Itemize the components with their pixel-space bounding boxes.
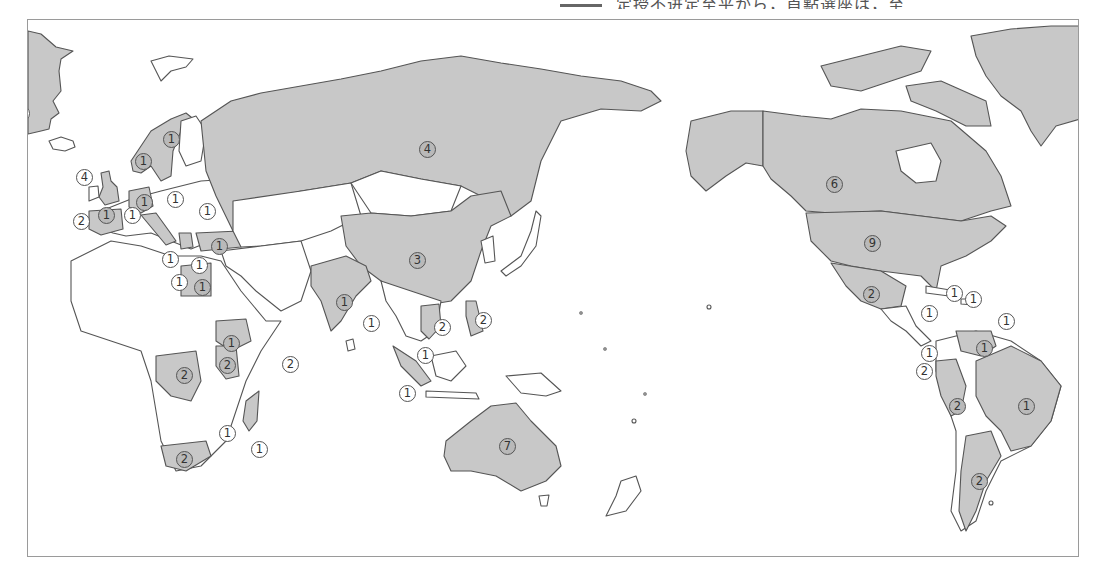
- marker-turkey: 1: [211, 238, 228, 255]
- marker-philippines: 2: [475, 312, 492, 329]
- marker-russia: 4: [419, 141, 436, 158]
- world-map-frame: 1411111211111114311221112221127692111111…: [27, 19, 1079, 557]
- marker-indonesia: 1: [399, 385, 416, 402]
- iceland: [49, 137, 75, 151]
- new-guinea: [506, 373, 561, 396]
- marker-poland: 1: [167, 191, 184, 208]
- java: [426, 391, 479, 399]
- marker-italy-sicily: 1: [162, 251, 179, 268]
- marker-ecuador: 2: [916, 363, 933, 380]
- marker-argentina: 2: [971, 473, 988, 490]
- marker-greece: 1: [191, 257, 208, 274]
- usa: [806, 211, 1006, 291]
- uk: [99, 171, 119, 205]
- marker-costa-rica: 1: [921, 305, 938, 322]
- sri-lanka: [346, 339, 355, 351]
- marker-ethiopia: 1: [223, 335, 240, 352]
- madagascar: [243, 391, 259, 431]
- marker-madagascar: 1: [251, 441, 268, 458]
- marker-saint-lucia: 1: [998, 313, 1015, 330]
- cropped-header-text: 定授不进定至平から，首點選座は，至: [330, 0, 1097, 9]
- new-zealand: [606, 476, 641, 516]
- marker-dominican-republic: 1: [965, 291, 982, 308]
- marker-mexico: 2: [863, 286, 880, 303]
- marker-kenya: 2: [219, 357, 236, 374]
- marker-usa: 9: [864, 235, 881, 252]
- marker-tunisia: 1: [171, 274, 188, 291]
- ireland: [89, 186, 99, 201]
- marker-malaysia: 1: [417, 347, 434, 364]
- world-map: [28, 20, 1079, 557]
- tasmania: [539, 495, 549, 506]
- marker-canada: 6: [826, 176, 843, 193]
- marker-south-africa: 2: [176, 451, 193, 468]
- marker-venezuela: 1: [976, 340, 993, 357]
- marker-china: 3: [409, 252, 426, 269]
- marker-sweden: 1: [163, 131, 180, 148]
- marker-norway: 1: [135, 153, 152, 170]
- greenland-west: [28, 31, 73, 134]
- marker-malawi: 1: [219, 425, 236, 442]
- answer-box: [560, 4, 602, 7]
- japan: [501, 211, 541, 276]
- greece: [179, 233, 193, 249]
- marker-egypt: 1: [194, 279, 211, 296]
- marker-peru: 2: [949, 398, 966, 415]
- marker-switzerland: 2: [73, 213, 90, 230]
- alaska: [686, 111, 763, 191]
- marker-ukraine: 1: [199, 203, 216, 220]
- greenland-east: [971, 26, 1079, 146]
- marker-seychelles: 2: [282, 356, 299, 373]
- svalbard: [151, 56, 193, 81]
- marker-australia: 7: [499, 438, 516, 455]
- marker-spain: 1: [98, 207, 115, 224]
- marker-vietnam: 2: [434, 319, 451, 336]
- marker-india: 1: [336, 294, 353, 311]
- marker-dr-congo: 2: [176, 367, 193, 384]
- marker-brazil: 1: [1018, 398, 1035, 415]
- marker-france-corsica: 1: [124, 207, 141, 224]
- korea: [481, 236, 495, 263]
- marker-bangladesh: 1: [363, 315, 380, 332]
- borneo: [431, 351, 466, 381]
- marker-germany: 1: [136, 194, 153, 211]
- marker-uk: 4: [76, 169, 93, 186]
- marker-cuba: 1: [946, 285, 963, 302]
- marker-panama: 1: [921, 345, 938, 362]
